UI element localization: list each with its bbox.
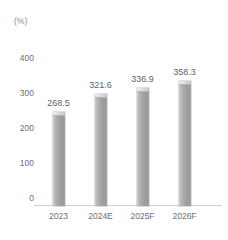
y-axis-tick-label: 300 — [20, 89, 34, 98]
x-axis-category-label: 2025F — [130, 212, 154, 221]
bar[interactable]: 358.3 — [179, 81, 191, 206]
y-axis-tick-label: 100 — [20, 158, 34, 167]
bar-top-highlight — [137, 88, 149, 92]
y-axis-tick-label: 400 — [20, 54, 34, 63]
bar-slot: 321.62024E — [80, 56, 121, 206]
bar-top-highlight — [179, 81, 191, 85]
bar-slot: 358.32026F — [164, 56, 205, 206]
bar-top-highlight — [95, 94, 107, 98]
scan-artifact-strip — [0, 0, 228, 6]
bar-value-label: 358.3 — [173, 68, 196, 77]
bar[interactable]: 268.5 — [53, 112, 65, 206]
bar-slot: 268.52023 — [38, 56, 79, 206]
x-axis-category-label: 2024E — [88, 212, 113, 221]
y-axis-tick-label: 200 — [20, 123, 34, 132]
x-axis-category-label: 2026F — [172, 212, 196, 221]
y-axis-tick-label: 0 — [29, 193, 34, 202]
bar-value-label: 321.6 — [89, 81, 112, 90]
bar-top-highlight — [53, 112, 65, 116]
bar-value-label: 268.5 — [47, 99, 70, 108]
bar-chart: (%) 4003002001000 268.52023321.62024E336… — [0, 0, 228, 240]
plot-area: 4003002001000 268.52023321.62024E336.920… — [38, 56, 222, 206]
bar[interactable]: 321.6 — [95, 94, 107, 206]
bar[interactable]: 336.9 — [137, 88, 149, 206]
bar-group: 268.52023321.62024E336.92025F358.32026F — [38, 56, 222, 206]
bar-value-label: 336.9 — [131, 75, 154, 84]
bar-slot: 336.92025F — [122, 56, 163, 206]
x-axis-category-label: 2023 — [49, 212, 68, 221]
y-axis-unit-label: (%) — [14, 16, 27, 26]
